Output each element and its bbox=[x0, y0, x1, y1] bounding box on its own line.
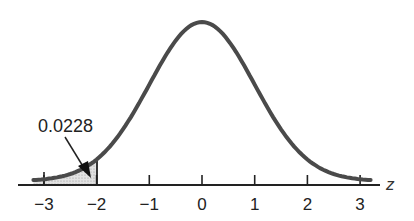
density-curve bbox=[33, 22, 370, 180]
x-tick-label: 1 bbox=[250, 195, 259, 214]
x-tick-label: 2 bbox=[303, 195, 312, 214]
annotation-label: 0.0228 bbox=[38, 116, 93, 136]
x-tick-label: 0 bbox=[197, 195, 206, 214]
x-axis-label: z bbox=[385, 175, 395, 194]
x-tick-label: −3 bbox=[34, 195, 53, 214]
x-tick-label: −1 bbox=[140, 195, 159, 214]
annotation-arrow bbox=[65, 137, 84, 168]
x-tick-label: −2 bbox=[87, 195, 106, 214]
normal-distribution-chart: −3−2−10123 0.0228 z bbox=[0, 0, 414, 221]
x-tick-label: 3 bbox=[355, 195, 364, 214]
